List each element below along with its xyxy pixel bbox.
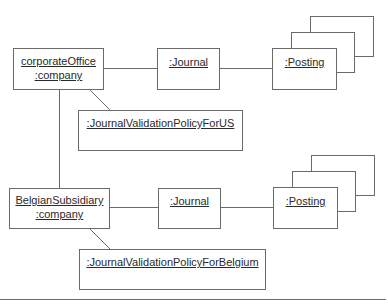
belgian-subsidiary-name: BelgianSubsidiary — [15, 194, 103, 206]
posting-object-us: :Posting — [272, 48, 337, 90]
belgian-subsidiary-object: BelgianSubsidiary :company — [9, 188, 110, 229]
belgian-subsidiary-class: :company — [36, 208, 84, 220]
policy-us-label: :JournalValidationPolicyForUS — [87, 117, 235, 129]
link-corporate-policy-us — [89, 89, 110, 110]
posting-label-be: :Posting — [286, 195, 326, 207]
corporate-office-class: :company — [35, 69, 83, 81]
journal-object-be: :Journal — [158, 188, 221, 229]
object-diagram: corporateOffice :company :Journal :Posti… — [0, 0, 388, 304]
journal-object-us: :Journal — [157, 48, 220, 90]
corporate-office-object: corporateOffice :company — [13, 48, 104, 90]
posting-label-us: :Posting — [285, 56, 325, 68]
journal-label-be: :Journal — [170, 195, 209, 207]
posting-object-be: :Posting — [273, 187, 338, 229]
policy-us-object: :JournalValidationPolicyForUS — [78, 110, 243, 151]
link-belgian-policy-be — [89, 228, 110, 249]
bottom-separator-line — [0, 299, 386, 300]
corporate-office-name: corporateOffice — [21, 55, 96, 67]
policy-be-label: :JournalValidationPolicyForBelgium — [86, 256, 258, 268]
journal-label-us: :Journal — [169, 56, 208, 68]
policy-be-object: :JournalValidationPolicyForBelgium — [79, 249, 266, 290]
